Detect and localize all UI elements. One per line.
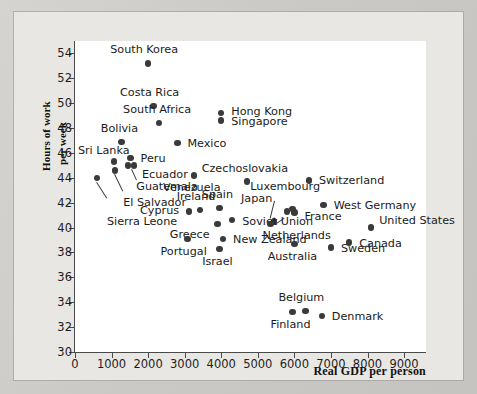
data-point-spain[interactable] [216,205,222,211]
x-tick-label-3000: 3000 [170,357,199,371]
chart-figure: Hours of work per week Real GDP per pers… [14,12,463,380]
y-tick-label-46: 46 [57,146,72,160]
point-label-united-states: United States [379,215,455,226]
data-point-singapore[interactable] [218,117,224,123]
data-point-denmark[interactable] [319,313,325,319]
data-point-el-salvador[interactable] [112,167,118,173]
x-tick-label-1000: 1000 [97,357,126,371]
y-tick-label-42: 42 [57,196,72,210]
x-tick-label-5000: 5000 [243,357,272,371]
el-salvador-leader [114,174,123,192]
point-label-portugal: Portugal [160,246,206,257]
y-tick-label-44: 44 [57,171,72,185]
x-tick-label-6000: 6000 [280,357,309,371]
point-label-sri-lanka: Sri Lanka [78,145,130,156]
x-tick-label-4000: 4000 [207,357,236,371]
point-label-belgium: Belgium [278,292,324,303]
data-point-mexico[interactable] [174,140,180,146]
data-point-ireland[interactable] [197,207,203,213]
point-label-south-korea: South Korea [110,45,178,56]
point-label-spain: Spain [202,189,233,200]
point-label-sweden: Sweden [341,243,385,254]
point-label-mexico: Mexico [187,138,226,149]
y-tick-label-40: 40 [57,221,72,235]
y-tick-label-52: 52 [57,71,72,85]
data-point-west-germany[interactable] [320,202,326,208]
plot-inner: South KoreaCosta RicaHong KongSingaporeS… [75,41,426,352]
data-point-sri-lanka[interactable] [111,158,117,164]
x-tick-label-8000: 8000 [353,357,382,371]
point-label-australia: Australia [268,251,318,262]
plot-area: South KoreaCosta RicaHong KongSingaporeS… [74,41,426,353]
y-tick-label-32: 32 [57,320,72,334]
figure-page: Hours of work per week Real GDP per pers… [0,0,477,394]
data-point-hong-kong[interactable] [218,110,224,116]
point-label-soviet-union: Soviet Union [242,217,313,228]
y-axis-title-line1: Hours of work [40,101,52,171]
data-point-czechoslovakia[interactable] [244,178,250,184]
y-tick-label-30: 30 [57,345,72,359]
data-point-united-states[interactable] [368,224,374,230]
point-label-west-germany: West Germany [334,201,416,212]
y-tick-label-36: 36 [57,270,72,284]
data-point-netherlands[interactable] [267,221,273,227]
y-tick-label-34: 34 [57,295,72,309]
y-tick-label-50: 50 [57,96,72,110]
point-label-sierra-leone: Sierra Leone [107,216,177,227]
data-point-venezuela[interactable] [191,172,197,178]
point-label-peru: Peru [141,153,166,164]
data-point-guatemala[interactable] [131,162,137,168]
y-tick-label-54: 54 [57,46,72,60]
data-point-cyprus[interactable] [186,208,192,214]
x-tick-label-2000: 2000 [133,357,162,371]
data-point-south-africa[interactable] [156,120,162,126]
sierra-leone-leader [96,182,107,199]
x-tick-label-0: 0 [71,357,78,371]
data-point-australia[interactable] [291,241,297,247]
data-point-sweden[interactable] [328,244,334,250]
point-label-finland: Finland [271,320,311,331]
data-point-finland[interactable] [289,309,295,315]
point-label-luxembourg: Luxembourg [250,182,320,193]
point-label-denmark: Denmark [332,311,383,322]
point-label-singapore: Singapore [231,116,287,127]
point-label-israel: Israel [202,256,233,267]
y-tick-label-38: 38 [57,245,72,259]
data-point-sierra-leone[interactable] [94,175,100,181]
point-label-south-africa: South Africa [123,104,191,115]
point-label-bolivia: Bolivia [101,123,138,134]
x-tick-label-7000: 7000 [316,357,345,371]
point-label-costa-rica: Costa Rica [120,87,179,98]
guatemala-leader [131,169,137,181]
x-tick-label-9000: 9000 [389,357,418,371]
data-point-soviet-union[interactable] [229,217,235,223]
data-point-greece[interactable] [214,221,220,227]
point-label-japan: Japan [241,194,272,205]
data-point-new-zealand[interactable] [220,236,226,242]
point-label-cyprus: Cyprus [140,206,179,217]
point-label-czechoslovakia: Czechoslovakia [202,163,288,174]
point-label-ecuador: Ecuador [142,170,188,181]
data-point-south-korea[interactable] [145,60,151,66]
y-tick-label-48: 48 [57,121,72,135]
data-point-portugal[interactable] [184,236,190,242]
data-point-israel[interactable] [216,246,222,252]
data-point-belgium[interactable] [302,308,308,314]
point-label-switzerland: Switzerland [319,176,384,187]
